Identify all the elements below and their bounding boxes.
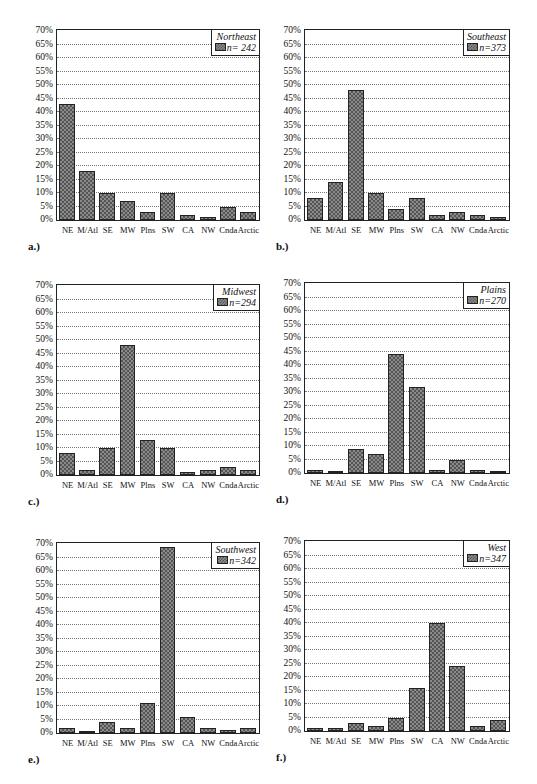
gridline bbox=[305, 98, 509, 99]
legend-entry: n=373 bbox=[467, 42, 506, 53]
bar-arctic bbox=[240, 212, 256, 220]
gridline bbox=[305, 649, 509, 650]
bar-plns bbox=[388, 209, 404, 220]
y-tick-label: 0% bbox=[23, 214, 53, 224]
legend-title: Northeast bbox=[215, 31, 256, 42]
panel-label: e.) bbox=[28, 753, 39, 765]
panel-label: c.) bbox=[28, 495, 39, 507]
y-tick-label: 30% bbox=[271, 386, 301, 396]
y-tick-label: 65% bbox=[271, 292, 301, 302]
gridline bbox=[305, 378, 509, 379]
legend-sample-size: n= 242 bbox=[227, 42, 256, 53]
y-tick-label: 35% bbox=[23, 633, 53, 643]
panel-label: d.) bbox=[276, 493, 289, 505]
y-tick-label: 35% bbox=[271, 373, 301, 383]
gridline bbox=[57, 611, 259, 612]
y-tick-label: 50% bbox=[271, 332, 301, 342]
y-tick-label: 5% bbox=[271, 201, 301, 211]
gridline bbox=[305, 391, 509, 392]
y-tick-label: 65% bbox=[271, 39, 301, 49]
y-tick-label: 45% bbox=[271, 604, 301, 614]
gridline bbox=[305, 445, 509, 446]
bar-cnda bbox=[220, 207, 236, 221]
gridline bbox=[305, 125, 509, 126]
legend: Northeastn= 242 bbox=[211, 29, 260, 56]
bar-ne bbox=[307, 470, 323, 473]
gridline bbox=[305, 595, 509, 596]
bar-m-atl bbox=[328, 728, 344, 731]
y-tick-label: 0% bbox=[271, 214, 301, 224]
y-tick-label: 15% bbox=[23, 429, 53, 439]
plot-area: Southeastn=373 bbox=[304, 29, 510, 221]
gridline bbox=[57, 651, 259, 652]
bar-ne bbox=[59, 104, 75, 220]
gridline bbox=[57, 692, 259, 693]
legend-entry: n=294 bbox=[217, 297, 256, 308]
y-tick-label: 45% bbox=[23, 606, 53, 616]
y-tick-label: 25% bbox=[271, 400, 301, 410]
bar-mw bbox=[368, 193, 384, 220]
bar-se bbox=[99, 448, 115, 475]
y-tick-label: 10% bbox=[23, 187, 53, 197]
y-tick-label: 10% bbox=[271, 187, 301, 197]
bar-plns bbox=[140, 440, 156, 475]
y-tick-label: 15% bbox=[23, 174, 53, 184]
gridline bbox=[57, 461, 259, 462]
y-tick-label: 0% bbox=[23, 469, 53, 479]
bar-arctic bbox=[240, 728, 256, 733]
legend: Southeastn=373 bbox=[463, 29, 510, 56]
y-tick-label: 25% bbox=[23, 660, 53, 670]
bar-plns bbox=[388, 354, 404, 473]
y-tick-label: 65% bbox=[23, 294, 53, 304]
y-tick-label: 20% bbox=[23, 415, 53, 425]
y-tick-label: 30% bbox=[271, 133, 301, 143]
y-tick-label: 45% bbox=[271, 346, 301, 356]
bar-sw bbox=[409, 688, 425, 731]
bar-se bbox=[99, 193, 115, 220]
legend-entry: n= 242 bbox=[215, 42, 256, 53]
y-tick-label: 55% bbox=[271, 577, 301, 587]
gridline bbox=[57, 71, 259, 72]
legend-title: West bbox=[467, 542, 506, 553]
y-tick-label: 0% bbox=[271, 467, 301, 477]
y-tick-label: 25% bbox=[23, 147, 53, 157]
y-tick-label: 60% bbox=[271, 305, 301, 315]
gridline bbox=[57, 326, 259, 327]
bar-plns bbox=[388, 718, 404, 732]
bar-mw bbox=[368, 726, 384, 731]
x-tick-label: Arctic bbox=[236, 738, 260, 748]
y-tick-label: 55% bbox=[23, 321, 53, 331]
panel-label: f.) bbox=[276, 751, 286, 763]
bar-m-atl bbox=[328, 182, 344, 220]
x-tick-label: Arctic bbox=[486, 478, 510, 488]
bar-ca bbox=[429, 623, 445, 731]
bar-ne bbox=[307, 198, 323, 220]
bar-m-atl bbox=[79, 731, 95, 733]
bar-sw bbox=[160, 547, 176, 733]
plot-area: Northeastn= 242 bbox=[56, 29, 260, 221]
gridline bbox=[305, 57, 509, 58]
gridline bbox=[57, 339, 259, 340]
bar-cnda bbox=[220, 730, 236, 733]
gridline bbox=[57, 57, 259, 58]
bar-sw bbox=[160, 193, 176, 220]
bar-mw bbox=[120, 728, 136, 733]
bar-cnda bbox=[470, 726, 486, 731]
gridline bbox=[305, 636, 509, 637]
gridline bbox=[305, 324, 509, 325]
gridline bbox=[57, 638, 259, 639]
gridline bbox=[305, 84, 509, 85]
gridline bbox=[57, 719, 259, 720]
bar-m-atl bbox=[79, 171, 95, 220]
y-tick-label: 45% bbox=[23, 348, 53, 358]
y-tick-label: 50% bbox=[271, 590, 301, 600]
gridline bbox=[305, 717, 509, 718]
y-tick-label: 70% bbox=[271, 25, 301, 35]
y-tick-label: 15% bbox=[23, 687, 53, 697]
y-tick-label: 70% bbox=[271, 278, 301, 288]
bar-cnda bbox=[220, 467, 236, 475]
bar-plns bbox=[140, 212, 156, 220]
bar-nw bbox=[200, 217, 216, 220]
y-tick-label: 50% bbox=[271, 79, 301, 89]
bar-nw bbox=[449, 666, 465, 731]
